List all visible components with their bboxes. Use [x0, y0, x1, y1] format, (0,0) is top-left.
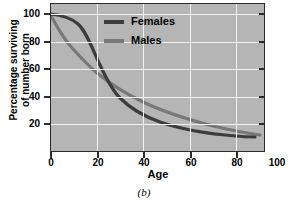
- gridline-vertical-20: [97, 3, 98, 152]
- x-tick-label-60: 60: [180, 158, 202, 168]
- x-tick-label-20: 20: [87, 158, 109, 168]
- y-tick-100: [44, 13, 50, 15]
- plot-area: Females Males: [50, 3, 265, 152]
- y-tick-80: [44, 41, 50, 43]
- x-tick-label-0: 0: [40, 158, 62, 168]
- legend-swatch-females: [104, 20, 124, 24]
- y-axis-label-line1: Percentage surviving: [8, 9, 20, 131]
- x-tick-label-80: 80: [226, 158, 248, 168]
- figure-caption: (b): [94, 186, 194, 198]
- gridline-vertical-80: [236, 3, 237, 152]
- legend-swatch-males: [104, 39, 124, 43]
- y-tick-right-80: [259, 41, 265, 43]
- legend-item-males: Males: [104, 33, 175, 48]
- y-tick-60: [44, 68, 50, 70]
- legend-label-females: Females: [131, 16, 175, 27]
- legend-item-females: Females: [104, 14, 175, 29]
- gridline-horizontal-60: [50, 69, 265, 70]
- x-axis-label: Age: [108, 168, 208, 180]
- gridline-horizontal-40: [50, 97, 265, 98]
- figure-survivorship-curve: Females Males 20 40 60 80 100 0 20 40 60…: [0, 0, 288, 202]
- y-tick-right-60: [259, 68, 265, 70]
- y-tick-right-40: [259, 96, 265, 98]
- y-tick-right-100: [259, 13, 265, 15]
- y-tick-right-20: [259, 123, 265, 125]
- gridline-vertical-60: [190, 3, 191, 152]
- legend-label-males: Males: [131, 35, 162, 46]
- x-tick-label-40: 40: [133, 158, 155, 168]
- legend: Females Males: [104, 14, 175, 48]
- y-tick-20: [44, 123, 50, 125]
- y-axis-label-line2: of number born: [20, 9, 32, 131]
- gridline-horizontal-20: [50, 124, 265, 125]
- x-tick-label-100: 100: [266, 158, 288, 168]
- y-axis-label: Percentage surviving of number born: [8, 9, 32, 131]
- y-tick-40: [44, 96, 50, 98]
